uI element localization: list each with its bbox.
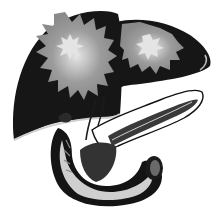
anatomy-illustration bbox=[0, 0, 221, 222]
organs-svg bbox=[0, 0, 221, 222]
liver-left-lobe bbox=[116, 20, 211, 88]
